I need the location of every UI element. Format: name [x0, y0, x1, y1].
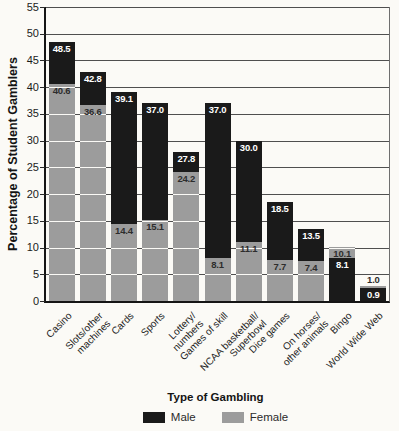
gridline — [46, 34, 389, 35]
y-tick — [40, 87, 45, 88]
y-tick — [40, 274, 45, 275]
y-tick-label: 15 — [0, 214, 39, 227]
y-tick — [40, 7, 45, 8]
bar-value-female: 7.4 — [295, 262, 327, 273]
y-tick — [40, 301, 45, 302]
bar-value-male: 13.5 — [295, 230, 327, 241]
y-tick-label: 40 — [0, 81, 39, 94]
y-tick-label: 35 — [0, 107, 39, 120]
y-tick — [40, 167, 45, 168]
bar-value-male: 37.0 — [202, 104, 234, 115]
y-tick — [40, 221, 45, 222]
bar-value-female: 10.1 — [326, 248, 358, 259]
bar-female — [80, 105, 106, 301]
bar-female — [142, 220, 168, 301]
bar-value-male: 0.9 — [357, 289, 389, 300]
y-tick — [40, 194, 45, 195]
bar-female — [49, 84, 75, 301]
bar-value-female: 40.6 — [46, 85, 78, 96]
y-tick — [40, 141, 45, 142]
gridline — [46, 7, 389, 8]
y-tick — [40, 114, 45, 115]
y-tick-label: 30 — [0, 134, 39, 147]
y-tick-label: 25 — [0, 161, 39, 174]
bar-value-female: 36.6 — [77, 106, 109, 117]
bar-value-female: 14.4 — [108, 225, 140, 236]
bar-value-male: 42.8 — [77, 73, 109, 84]
bar-value-female: 8.1 — [202, 259, 234, 270]
bar-value-male: 39.1 — [108, 93, 140, 104]
bar-value-female: 7.7 — [264, 261, 296, 272]
bar-value-male: 8.1 — [326, 259, 358, 270]
bar-value-male: 30.0 — [233, 142, 265, 153]
y-tick-label: 45 — [0, 54, 39, 67]
gridline — [46, 60, 389, 61]
y-tick-label: 20 — [0, 188, 39, 201]
y-tick-label: 5 — [0, 268, 39, 281]
bar-value-female: 24.2 — [170, 173, 202, 184]
y-tick-label: 10 — [0, 241, 39, 254]
plot-area: 48.540.642.836.639.114.437.015.127.824.2… — [44, 7, 390, 303]
bar-value-male: 18.5 — [264, 203, 296, 214]
y-tick — [40, 248, 45, 249]
bar-value-male: 48.5 — [46, 43, 78, 54]
bar-value-female: 11.1 — [233, 243, 265, 254]
figure: Percentage of Student Gamblers 48.540.64… — [0, 0, 399, 431]
bar-value-male: 27.8 — [170, 153, 202, 164]
bar-value-female: 1.0 — [357, 274, 389, 285]
bar-female — [173, 172, 199, 301]
y-tick — [40, 60, 45, 61]
y-tick — [40, 34, 45, 35]
y-tick-label: 0 — [0, 295, 39, 308]
y-tick-label: 55 — [0, 1, 39, 14]
bar-value-male: 37.0 — [139, 104, 171, 115]
bar-value-female: 15.1 — [139, 221, 171, 232]
y-tick-label: 50 — [0, 27, 39, 40]
